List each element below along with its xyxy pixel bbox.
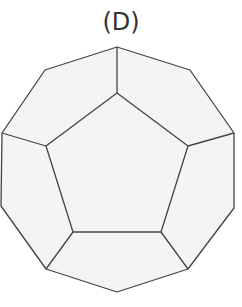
dodecahedron-diagram — [0, 0, 242, 307]
